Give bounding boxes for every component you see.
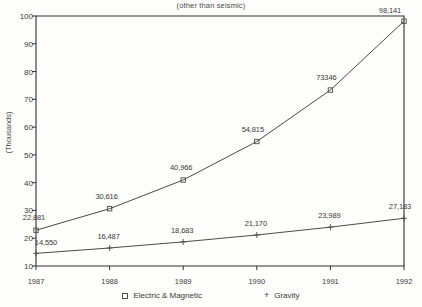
series-line-gravity xyxy=(36,218,404,253)
data-point-label: 14,550 xyxy=(35,238,57,247)
data-point-label: 73346 xyxy=(316,73,336,82)
legend-item-gravity[interactable]: + Gravity xyxy=(264,291,300,300)
plot-area xyxy=(0,0,422,307)
data-point-label: 16,487 xyxy=(97,231,119,240)
plot-frame xyxy=(36,16,404,266)
data-point-label: 54,815 xyxy=(242,124,264,133)
legend-item-electric-magnetic[interactable]: Electric & Magnetic xyxy=(122,291,201,300)
data-point-label: 18,683 xyxy=(171,225,193,234)
data-point-label: 22,881 xyxy=(23,213,45,222)
data-point-label: 98,141 xyxy=(379,6,401,15)
legend-label-electric-magnetic: Electric & Magnetic xyxy=(133,291,201,300)
legend-label-gravity: Gravity xyxy=(274,291,299,300)
data-point-label: 27,183 xyxy=(389,202,411,211)
plus-marker xyxy=(254,232,260,238)
data-point-label: 30,616 xyxy=(95,191,117,200)
line-chart: (other than seismic) (Thousands) 1009080… xyxy=(0,0,422,307)
data-point-label: 23,989 xyxy=(318,211,340,220)
plus-marker-icon: + xyxy=(264,291,269,300)
plus-marker xyxy=(327,224,333,230)
data-point-label: 40,966 xyxy=(170,162,192,171)
square-marker-icon xyxy=(122,293,128,299)
series-line-electric-magnetic xyxy=(36,21,404,230)
plus-marker xyxy=(180,239,186,245)
plus-marker xyxy=(401,215,407,221)
plus-marker xyxy=(33,250,39,256)
data-point-label: 21,170 xyxy=(245,218,267,227)
chart-legend: Electric & Magnetic + Gravity xyxy=(0,291,422,300)
plus-marker xyxy=(107,245,113,251)
